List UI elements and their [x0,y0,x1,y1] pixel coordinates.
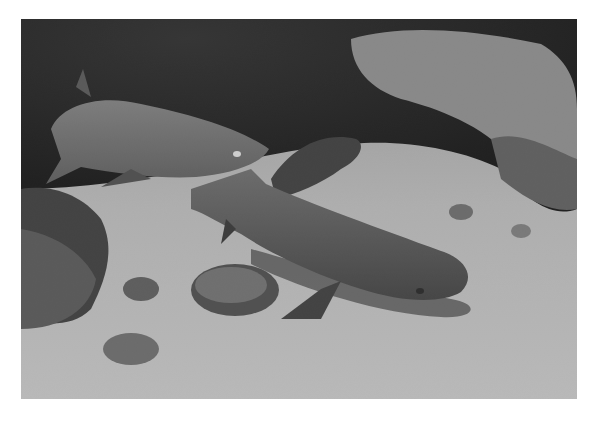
photo-illustration [21,19,577,399]
shark-photo [21,19,577,399]
